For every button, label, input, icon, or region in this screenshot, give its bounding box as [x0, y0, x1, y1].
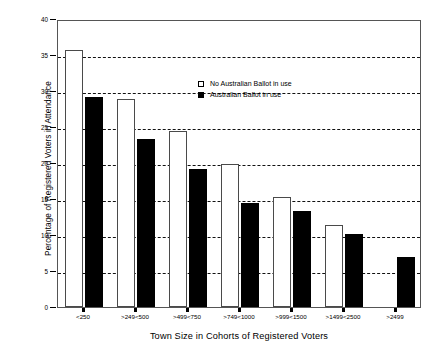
white-square-icon	[198, 81, 204, 87]
y-axis-tick-label: 5	[26, 268, 48, 275]
y-axis-tick-label: 15	[26, 196, 48, 203]
bar	[189, 169, 207, 307]
bar	[117, 99, 135, 307]
x-axis-tick	[238, 308, 241, 312]
bar	[85, 97, 103, 307]
chart-figure: Percentage of Registered Voters in Atten…	[0, 0, 441, 350]
bar	[241, 203, 259, 307]
y-axis-tick	[50, 235, 56, 236]
y-axis-tick	[50, 127, 56, 128]
y-axis-tick-label: 40	[26, 16, 48, 23]
x-axis-tick	[342, 308, 345, 312]
x-axis-title: Town Size in Cohorts of Registered Voter…	[57, 331, 421, 341]
y-axis-tick	[50, 55, 56, 56]
x-axis-tick-label: >2499	[355, 313, 435, 320]
y-axis-tick	[50, 163, 56, 164]
bar	[345, 234, 363, 307]
y-axis-tick	[50, 271, 56, 272]
x-axis-tick	[82, 308, 85, 312]
y-axis-tick-label: 10	[26, 232, 48, 239]
bar	[397, 257, 415, 307]
bar	[273, 197, 291, 307]
y-axis-tick-label: 30	[26, 88, 48, 95]
y-axis-tick-label: 20	[26, 160, 48, 167]
x-axis-tick	[186, 308, 189, 312]
bar	[325, 225, 343, 307]
legend-item: No Australian Ballot in use	[198, 78, 292, 89]
x-axis-tick	[134, 308, 137, 312]
x-axis-tick	[290, 308, 293, 312]
y-axis-tick-label: 35	[26, 52, 48, 59]
bar	[65, 50, 83, 307]
y-axis-tick-label: 25	[26, 124, 48, 131]
bar	[293, 211, 311, 307]
black-square-icon	[198, 92, 204, 98]
bar	[169, 131, 187, 307]
y-axis-tick	[50, 19, 56, 20]
x-axis-tick	[394, 308, 397, 312]
bar	[137, 139, 155, 307]
plot-area	[57, 20, 421, 308]
legend-item: Australian Ballot in use	[198, 89, 281, 100]
y-axis-tick-label: 0	[26, 304, 48, 311]
legend-item-label: Australian Ballot in use	[210, 91, 281, 98]
chart-legend: No Australian Ballot in useAustralian Ba…	[198, 78, 348, 106]
bar-series-layer	[58, 21, 420, 307]
legend-item-label: No Australian Ballot in use	[210, 80, 292, 87]
y-axis-tick	[50, 91, 56, 92]
bar	[221, 164, 239, 307]
y-axis-tick	[50, 199, 56, 200]
y-axis-tick	[50, 307, 56, 308]
